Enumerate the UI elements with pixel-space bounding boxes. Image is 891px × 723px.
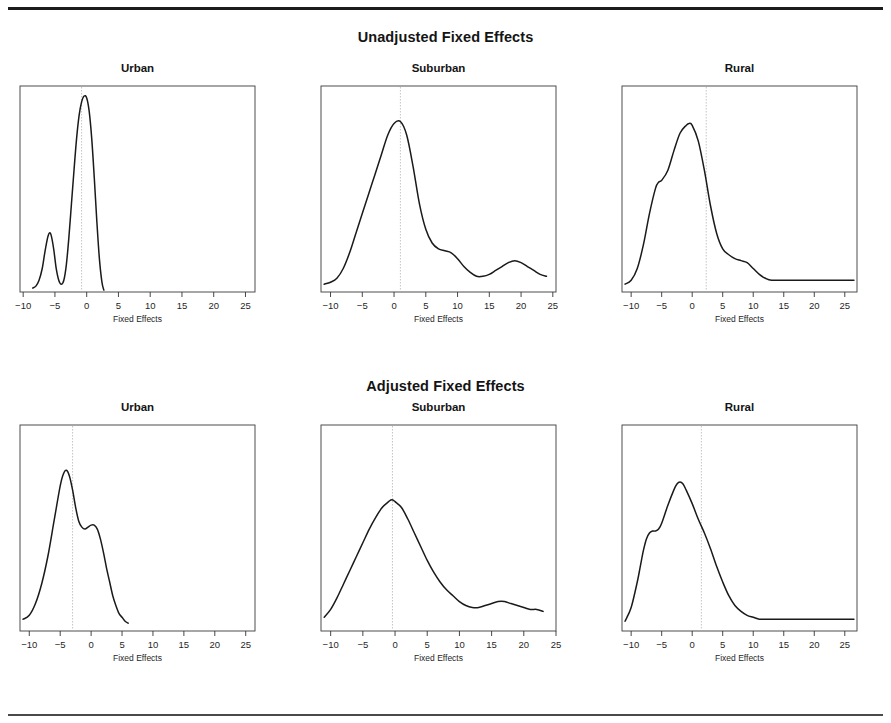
panel-title: Suburban [314, 62, 563, 74]
svg-text:10: 10 [148, 639, 159, 650]
svg-text:0: 0 [391, 300, 396, 311]
svg-text:15: 15 [484, 300, 495, 311]
svg-text:20: 20 [208, 300, 219, 311]
svg-text:0: 0 [690, 300, 695, 311]
panel-unadjusted-urban: Urban −10−50510152025 Fixed Effects [13, 62, 262, 334]
svg-text:25: 25 [548, 300, 559, 311]
svg-text:−10: −10 [322, 300, 338, 311]
x-axis-title: Fixed Effects [13, 653, 262, 663]
svg-text:0: 0 [88, 639, 93, 650]
svg-text:−10: −10 [623, 639, 639, 650]
panel-title: Urban [13, 62, 262, 74]
density-plot: −10−50510152025 [13, 419, 262, 673]
figure-page: Unadjusted Fixed Effects Adjusted Fixed … [0, 0, 891, 723]
section-title-unadjusted: Unadjusted Fixed Effects [0, 29, 891, 45]
panel-adjusted-suburban: Suburban −10−50510152025 Fixed Effects [314, 401, 563, 673]
svg-text:10: 10 [452, 300, 463, 311]
svg-text:−5: −5 [357, 300, 368, 311]
svg-text:10: 10 [145, 300, 156, 311]
panel-title: Suburban [314, 401, 563, 413]
svg-text:25: 25 [240, 639, 251, 650]
density-plot: −10−50510152025 [615, 419, 864, 673]
svg-text:−10: −10 [623, 300, 639, 311]
svg-text:15: 15 [486, 639, 497, 650]
svg-text:5: 5 [425, 639, 430, 650]
svg-text:25: 25 [840, 639, 851, 650]
svg-text:25: 25 [240, 300, 251, 311]
svg-text:15: 15 [778, 300, 789, 311]
panel-title: Rural [615, 401, 864, 413]
svg-text:5: 5 [720, 639, 725, 650]
x-axis-title: Fixed Effects [314, 314, 563, 324]
svg-text:10: 10 [748, 639, 759, 650]
svg-text:−5: −5 [656, 300, 667, 311]
svg-text:−10: −10 [323, 639, 339, 650]
x-axis-title: Fixed Effects [314, 653, 563, 663]
density-plot: −10−50510152025 [314, 419, 563, 673]
x-axis-title: Fixed Effects [13, 314, 262, 324]
density-plot: −10−50510152025 [13, 80, 262, 334]
svg-text:25: 25 [840, 300, 851, 311]
svg-text:10: 10 [454, 639, 465, 650]
x-axis-title: Fixed Effects [615, 653, 864, 663]
svg-text:0: 0 [690, 639, 695, 650]
svg-text:20: 20 [519, 639, 530, 650]
svg-text:15: 15 [177, 300, 188, 311]
svg-text:20: 20 [809, 639, 820, 650]
svg-text:20: 20 [809, 300, 820, 311]
x-axis-title: Fixed Effects [615, 314, 864, 324]
svg-text:−5: −5 [55, 639, 66, 650]
svg-text:−10: −10 [15, 300, 31, 311]
svg-text:0: 0 [84, 300, 89, 311]
panel-title: Urban [13, 401, 262, 413]
bottom-rule [8, 714, 883, 716]
svg-text:5: 5 [119, 639, 124, 650]
density-plot: −10−50510152025 [314, 80, 563, 334]
svg-text:20: 20 [516, 300, 527, 311]
panel-adjusted-rural: Rural −10−50510152025 Fixed Effects [615, 401, 864, 673]
density-plot: −10−50510152025 [615, 80, 864, 334]
svg-text:5: 5 [720, 300, 725, 311]
svg-text:20: 20 [210, 639, 221, 650]
svg-text:0: 0 [392, 639, 397, 650]
svg-text:−5: −5 [357, 639, 368, 650]
section-title-adjusted: Adjusted Fixed Effects [0, 378, 891, 394]
panel-title: Rural [615, 62, 864, 74]
svg-text:15: 15 [179, 639, 190, 650]
svg-text:−5: −5 [656, 639, 667, 650]
svg-text:25: 25 [551, 639, 562, 650]
top-rule [8, 7, 883, 10]
panel-unadjusted-suburban: Suburban −10−50510152025 Fixed Effects [314, 62, 563, 334]
panel-adjusted-urban: Urban −10−50510152025 Fixed Effects [13, 401, 262, 673]
svg-text:15: 15 [778, 639, 789, 650]
svg-text:5: 5 [423, 300, 428, 311]
svg-text:5: 5 [116, 300, 121, 311]
svg-text:−10: −10 [21, 639, 37, 650]
svg-text:−5: −5 [50, 300, 61, 311]
svg-text:10: 10 [748, 300, 759, 311]
panel-unadjusted-rural: Rural −10−50510152025 Fixed Effects [615, 62, 864, 334]
